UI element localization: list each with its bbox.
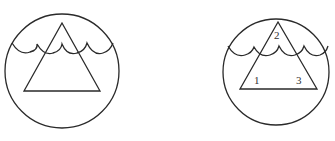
left-wave-line	[12, 43, 113, 54]
label-1: 1	[254, 74, 260, 86]
right-wave-line	[228, 46, 328, 56]
left-triangle	[24, 23, 100, 91]
figure-left	[5, 14, 119, 128]
diagram-canvas: 2 1 3	[0, 0, 335, 141]
figure-right: 2 1 3	[223, 19, 329, 125]
label-2: 2	[274, 29, 280, 41]
left-circle	[5, 14, 119, 128]
label-3: 3	[296, 74, 302, 86]
